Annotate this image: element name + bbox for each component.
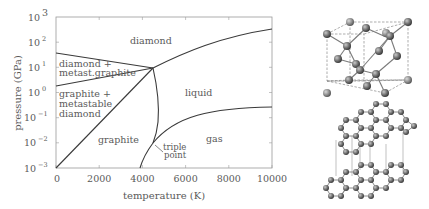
x-axis-title: temperature (K) <box>123 190 205 201</box>
x-tick-labels: 0 2000 4000 6000 8000 10000 <box>54 173 287 184</box>
svg-text:10: 10 <box>24 163 36 174</box>
svg-text:10: 10 <box>28 87 40 98</box>
svg-text:diamond: diamond <box>59 108 101 119</box>
bottom-graphene-layer <box>326 165 406 196</box>
svg-text:10: 10 <box>28 62 40 73</box>
svg-text:4000: 4000 <box>130 173 154 184</box>
svg-text:10: 10 <box>28 12 40 23</box>
svg-text:3: 3 <box>42 7 48 18</box>
region-labels: diamond diamond + metast.graphite graphi… <box>59 35 223 160</box>
svg-text:10000: 10000 <box>257 173 287 184</box>
svg-text:10: 10 <box>24 112 36 123</box>
svg-text:point: point <box>164 150 187 160</box>
graphite-lattice-illustration <box>323 101 417 199</box>
svg-text:0: 0 <box>42 85 46 93</box>
y-axis-title: pressure (GPa) <box>12 55 23 131</box>
sublimation-curve <box>140 143 153 168</box>
svg-text:gas: gas <box>206 133 223 144</box>
svg-text:metast.graphite: metast.graphite <box>59 67 136 78</box>
svg-text:10: 10 <box>28 37 40 48</box>
diamond-lattice-illustration <box>323 18 412 97</box>
carbon-phase-diagram-figure: 10 3 10 2 10 1 10 0 10 −1 10 −2 10 −3 0 … <box>0 0 429 209</box>
svg-text:graphite: graphite <box>98 134 139 145</box>
graphite-liquid-melting-curve <box>153 68 158 143</box>
svg-text:8000: 8000 <box>217 173 241 184</box>
svg-text:−1: −1 <box>38 110 48 118</box>
svg-text:−2: −2 <box>38 135 48 143</box>
triple-point-pointer <box>155 145 163 152</box>
svg-text:−3: −3 <box>38 161 48 169</box>
svg-text:10: 10 <box>24 137 36 148</box>
svg-text:2000: 2000 <box>87 173 111 184</box>
svg-text:liquid: liquid <box>185 87 212 98</box>
svg-text:0: 0 <box>54 173 60 184</box>
svg-text:2: 2 <box>42 35 46 43</box>
svg-text:diamond: diamond <box>130 35 172 46</box>
svg-text:6000: 6000 <box>174 173 198 184</box>
svg-text:1: 1 <box>42 60 46 68</box>
plot-area: 10 3 10 2 10 1 10 0 10 −1 10 −2 10 −3 0 … <box>12 7 287 201</box>
y-tick-labels: 10 3 10 2 10 1 10 0 10 −1 10 −2 10 −3 <box>24 7 48 174</box>
